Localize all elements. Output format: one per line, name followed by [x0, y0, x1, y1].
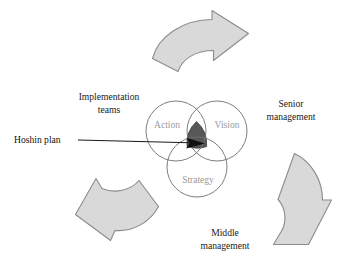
implementation-teams-line-1: Implementation	[79, 91, 140, 102]
outer-label-implementation-teams: Implementation teams	[79, 91, 140, 115]
middle-management-line-1: Middle	[211, 227, 239, 238]
hoshin-plan-leader-line	[78, 140, 190, 143]
venn-label-vision: Vision	[215, 120, 240, 130]
arrow-right-to-middle-management	[274, 154, 332, 245]
diagram-canvas: Action Vision Strategy Hoshin plan Imple…	[0, 0, 347, 267]
middle-management-line-2: management	[200, 240, 249, 251]
cycle-arrow-group	[76, 11, 332, 245]
senior-management-line-1: Senior	[278, 98, 304, 109]
venn-label-action: Action	[154, 120, 180, 130]
arrow-top-to-senior-management	[153, 11, 249, 72]
arrow-bottom-left-to-implementation-teams	[76, 179, 159, 241]
hoshin-plan-label: Hoshin plan	[14, 134, 61, 145]
senior-management-line-2: management	[266, 111, 315, 122]
hoshin-planning-cycle-figure: Action Vision Strategy Hoshin plan Imple…	[0, 0, 347, 267]
implementation-teams-line-2: teams	[98, 104, 121, 115]
hoshin-plan-callout: Hoshin plan	[14, 134, 205, 148]
venn-label-strategy: Strategy	[182, 175, 214, 185]
outer-label-middle-management: Middle management	[200, 227, 249, 251]
outer-label-senior-management: Senior management	[266, 98, 315, 122]
